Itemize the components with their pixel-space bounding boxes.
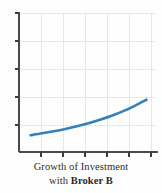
figure-caption: Growth of Investment with Broker B xyxy=(0,160,162,187)
caption-broker-name: Broker B xyxy=(71,175,113,186)
caption-line-2-prefix: with xyxy=(49,175,71,186)
chart-axes xyxy=(19,12,158,152)
caption-line-2: with Broker B xyxy=(0,174,162,188)
caption-line-1: Growth of Investment xyxy=(0,160,162,174)
chart-svg xyxy=(0,0,162,160)
gridlines-horizontal xyxy=(19,13,155,125)
chart-plot-area xyxy=(0,0,162,160)
figure-container: Growth of Investment with Broker B xyxy=(0,0,162,193)
